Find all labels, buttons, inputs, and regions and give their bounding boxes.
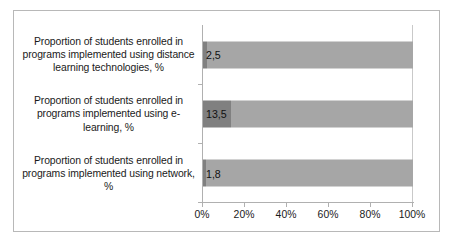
- bar-track: 2,5: [202, 41, 413, 68]
- tick-mark: [286, 203, 287, 207]
- bar-segment-remainder: [207, 41, 413, 68]
- bar-track: 13,5: [202, 100, 413, 127]
- bar-segment-remainder: [206, 160, 413, 187]
- bar-segment-remainder: [231, 100, 414, 127]
- category-axis-labels: Proportion of students enrolled in progr…: [14, 25, 201, 203]
- category-tick: [198, 143, 202, 144]
- tick-label-0: 0%: [194, 209, 209, 220]
- bar-series: 2,5 13,5 1,8: [202, 25, 414, 203]
- tick-label-60: 60%: [318, 209, 339, 220]
- bar-data-label: 2,5: [206, 49, 221, 61]
- tick-mark: [244, 203, 245, 207]
- bar-track: 1,8: [202, 160, 413, 187]
- tick-mark: [370, 203, 371, 207]
- category-tick: [198, 84, 202, 85]
- value-axis-ticks: 0% 20% 40% 60% 80% 100%: [202, 206, 414, 226]
- tick-label-100: 100%: [399, 209, 426, 220]
- category-label: Proportion of students enrolled in progr…: [14, 84, 201, 143]
- tick-label-40: 40%: [276, 209, 297, 220]
- bar-row: 1,8: [202, 144, 414, 203]
- chart-frame: Proportion of students enrolled in progr…: [13, 10, 440, 232]
- bar-row: 2,5: [202, 25, 414, 84]
- tick-mark: [202, 203, 203, 207]
- category-label: Proportion of students enrolled in progr…: [14, 25, 201, 84]
- category-label: Proportion of students enrolled in progr…: [14, 144, 201, 203]
- tick-mark: [328, 203, 329, 207]
- tick-mark: [412, 203, 413, 207]
- tick-label-80: 80%: [360, 209, 381, 220]
- value-axis-line: [202, 25, 203, 203]
- bar-data-label: 13,5: [206, 108, 227, 120]
- tick-label-20: 20%: [234, 209, 255, 220]
- bar-row: 13,5: [202, 84, 414, 143]
- bar-data-label: 1,8: [206, 167, 221, 179]
- plot-area: 2,5 13,5 1,8: [202, 25, 414, 203]
- category-axis-line: [202, 202, 414, 203]
